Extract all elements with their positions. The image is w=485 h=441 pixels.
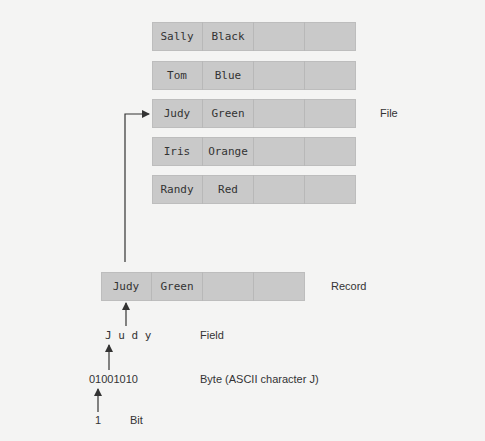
- connector-arrows: [0, 0, 485, 441]
- data-hierarchy-diagram: Sally Black Tom Blue Judy Green Iris Ora…: [0, 0, 485, 441]
- record-to-file-arrow: [125, 114, 149, 262]
